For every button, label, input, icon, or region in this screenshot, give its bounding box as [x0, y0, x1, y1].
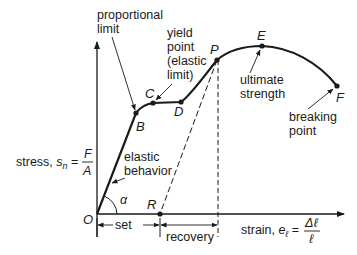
point-r-dot [157, 211, 162, 216]
yield-point-label-line2: point [167, 40, 195, 54]
proportional-limit-label-line2: limit [97, 22, 120, 36]
point-p-label: P [210, 42, 219, 57]
breaking-point-pointer [308, 89, 333, 109]
recovery-label: recovery [166, 230, 215, 244]
breaking-point-label-line1: breaking [289, 110, 337, 124]
unloading-line [160, 60, 217, 214]
point-r-label: R [147, 197, 156, 212]
strain-axis-label: strain, eℓ = [241, 223, 299, 239]
proportional-limit-pointer [112, 37, 135, 110]
strain-denominator: ℓ [309, 232, 314, 246]
point-c-dot [150, 100, 155, 105]
angle-arc [104, 196, 117, 214]
point-f-dot [334, 83, 339, 88]
proportional-limit-label-line1: proportional [97, 8, 163, 22]
yield-point-label-line1: yield [167, 26, 193, 40]
point-b-label: B [136, 119, 145, 134]
ultimate-strength-pointer [250, 50, 260, 73]
breaking-point-label-line2: point [289, 124, 317, 138]
stress-strain-diagram: α O B C D P E F R proportional limit yie… [0, 0, 357, 255]
yield-point-label-line4: limit) [167, 68, 193, 82]
stress-axis-label: stress, sn = [16, 155, 78, 171]
point-o-label: O [83, 212, 93, 227]
point-c-label: C [145, 86, 155, 101]
point-b-dot [133, 110, 138, 115]
point-p-dot [214, 57, 219, 62]
yield-point-label-line3: (elastic [167, 54, 207, 68]
elastic-behavior-label-line2: behavior [124, 164, 172, 178]
set-label: set [115, 218, 132, 232]
point-e-label: E [257, 28, 266, 43]
ultimate-strength-label-line2: strength [240, 87, 285, 101]
ultimate-strength-label-line1: ultimate [240, 73, 284, 87]
stress-denominator: A [82, 164, 91, 178]
point-f-label: F [336, 90, 345, 105]
point-e-dot [259, 43, 264, 48]
elastic-behavior-pointer [112, 178, 125, 183]
yield-point-pointer [156, 84, 172, 100]
point-d-label: D [174, 104, 183, 119]
strain-numerator: Δℓ [304, 216, 318, 230]
angle-alpha-label: α [120, 193, 128, 207]
stress-numerator: F [84, 147, 93, 161]
elastic-behavior-label-line1: elastic [124, 150, 159, 164]
